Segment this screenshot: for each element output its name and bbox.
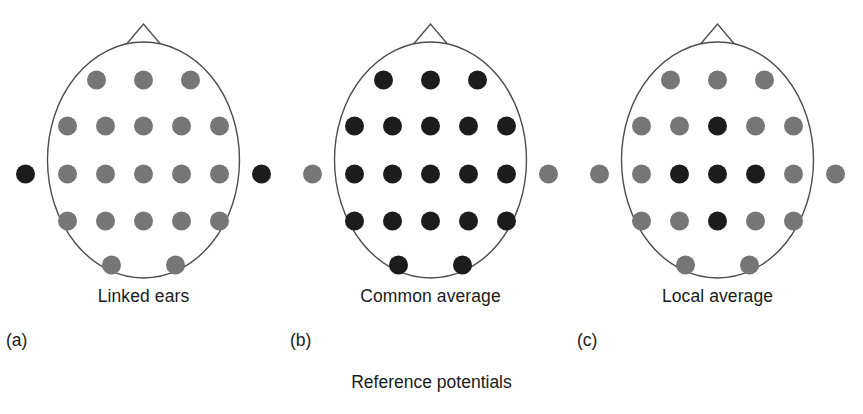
electrode [96, 212, 115, 231]
panel-linked-ears: Linked ears (a) [0, 0, 287, 360]
electrode [421, 117, 440, 136]
head-diagram-b [287, 0, 574, 292]
electrode [383, 117, 402, 136]
electrode [210, 117, 229, 136]
electrode [670, 165, 689, 184]
ear-electrode [826, 165, 845, 184]
electrode [632, 117, 651, 136]
electrode [134, 117, 153, 136]
electrode [96, 165, 115, 184]
ear-electrode [590, 165, 609, 184]
electrode [784, 117, 803, 136]
electrode [468, 71, 487, 90]
electrode [102, 256, 121, 275]
head-diagram-a [0, 0, 287, 292]
electrode [172, 165, 191, 184]
electrode [389, 256, 408, 275]
electrode [746, 117, 765, 136]
electrode [632, 165, 651, 184]
electrode [670, 117, 689, 136]
ear-electrode [539, 165, 558, 184]
panel-common-average: Common average (b) [287, 0, 574, 360]
electrode [459, 212, 478, 231]
panel-letter-c: (c) [577, 330, 597, 351]
ear-electrode [16, 165, 35, 184]
electrode [96, 117, 115, 136]
electrode [708, 165, 727, 184]
electrode [134, 212, 153, 231]
electrode [421, 71, 440, 90]
electrode [497, 165, 516, 184]
electrode [670, 212, 689, 231]
electrode [421, 165, 440, 184]
electrode [708, 71, 727, 90]
electrode [210, 165, 229, 184]
panel-caption-c: Local average [574, 286, 861, 307]
electrode [374, 71, 393, 90]
electrode [421, 212, 440, 231]
figure-caption: Reference potentials [0, 372, 863, 393]
electrode [708, 117, 727, 136]
electrode [497, 212, 516, 231]
electrode [740, 256, 759, 275]
electrode [58, 117, 77, 136]
electrode [210, 212, 229, 231]
electrode [383, 212, 402, 231]
electrode [172, 212, 191, 231]
electrode [746, 165, 765, 184]
electrode [134, 165, 153, 184]
electrode [181, 71, 200, 90]
electrode [345, 212, 364, 231]
electrode [784, 165, 803, 184]
electrode [58, 165, 77, 184]
panel-caption-b: Common average [287, 286, 574, 307]
electrode [166, 256, 185, 275]
panel-letter-a: (a) [6, 330, 27, 351]
ear-electrode [252, 165, 271, 184]
electrode [632, 212, 651, 231]
electrode [746, 212, 765, 231]
panel-letter-b: (b) [290, 330, 311, 351]
electrode [676, 256, 695, 275]
electrode [134, 71, 153, 90]
electrode [345, 117, 364, 136]
electrode [172, 117, 191, 136]
electrode [708, 212, 727, 231]
electrode [784, 212, 803, 231]
electrode [453, 256, 472, 275]
electrode [661, 71, 680, 90]
electrode [87, 71, 106, 90]
electrode [345, 165, 364, 184]
panel-row: Linked ears (a) Common average (b) Local… [0, 0, 863, 360]
panel-local-average: Local average (c) [574, 0, 861, 360]
electrode [459, 165, 478, 184]
reference-potentials-figure: Linked ears (a) Common average (b) Local… [0, 0, 863, 414]
head-diagram-c [574, 0, 861, 292]
panel-caption-a: Linked ears [0, 286, 287, 307]
electrode [383, 165, 402, 184]
ear-electrode [303, 165, 322, 184]
electrode [755, 71, 774, 90]
electrode [497, 117, 516, 136]
electrode [459, 117, 478, 136]
electrode [58, 212, 77, 231]
